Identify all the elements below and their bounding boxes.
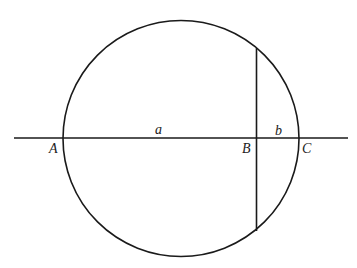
label-segment-a: a: [155, 122, 162, 137]
label-point-a: A: [48, 141, 58, 156]
label-point-b: B: [242, 141, 251, 156]
label-point-c: C: [302, 141, 312, 156]
label-segment-b: b: [275, 123, 282, 138]
geometry-diagram: A a B b C: [0, 0, 357, 268]
